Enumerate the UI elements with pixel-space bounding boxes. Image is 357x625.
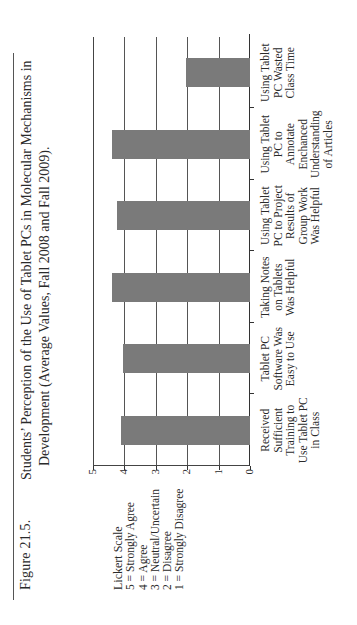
gridline [156, 37, 157, 465]
figure-title-line-2: Development (Average Values, Fall 2008 a… [36, 40, 54, 480]
y-tick-label: 2 [180, 469, 192, 479]
legend-title: Lickert Scale [112, 489, 124, 590]
bar [112, 273, 250, 302]
y-tick-mark [124, 466, 125, 470]
likert-legend: Lickert Scale 5 = Strongly Agree 4 = Agr… [112, 489, 186, 590]
y-tick-mark [156, 466, 157, 470]
y-tick-label: 4 [117, 469, 129, 479]
category-label: Tablet PCSoftware WasEasy to Use [259, 322, 297, 396]
rotated-figure-page: Figure 21.5. Students’ Perception of the… [0, 0, 357, 625]
y-tick-mark [250, 466, 251, 470]
category-label: Using TabletPC to ProjectResults ofGroup… [259, 179, 322, 253]
category-label: Using TabletPC toAnnotateEnchancedUnders… [259, 107, 334, 181]
x-tick-mark [249, 251, 254, 252]
legend-item: 5 = Strongly Agree [124, 489, 136, 590]
gridline [124, 37, 125, 465]
bar [117, 201, 250, 230]
bar [112, 130, 250, 159]
x-tick-mark [249, 322, 254, 323]
bar [186, 58, 250, 87]
x-tick-mark [249, 108, 254, 109]
y-tick-label: 5 [86, 469, 98, 479]
legend-item: 4 = Agree [137, 489, 149, 590]
legend-item: 3 = Neutral/Uncertain [149, 489, 161, 590]
legend-item: 1 = Strongly Disagree [173, 489, 185, 590]
y-tick-mark [187, 466, 188, 470]
y-tick-mark [93, 466, 94, 470]
x-tick-mark [249, 394, 254, 395]
bar [123, 344, 250, 373]
plot-area [93, 37, 250, 466]
header-rule [13, 53, 14, 600]
figure-label: Figure 21.5. [18, 520, 34, 590]
category-label: ReceivedSufficientTraining toUse Tablet … [259, 393, 322, 467]
figure-title-line-1: Students’ Perception of the Use of Table… [19, 60, 34, 480]
gridline [219, 37, 220, 465]
y-tick-mark [219, 466, 220, 470]
y-tick-label: 3 [149, 469, 161, 479]
bar [121, 416, 250, 445]
legend-item: 2 = Disagree [161, 489, 173, 590]
category-label: Using TabletPC WastedClass Time [259, 36, 297, 110]
category-label: Taking Noteson TabletsWas Helpful [259, 250, 297, 324]
gridline [187, 37, 188, 465]
figure-title: Students’ Perception of the Use of Table… [18, 40, 54, 480]
x-tick-mark [249, 179, 254, 180]
y-tick-label: 0 [243, 469, 255, 479]
y-tick-label: 1 [212, 469, 224, 479]
